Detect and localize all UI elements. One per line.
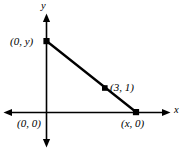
coordinate-plane-figure: y x (0, y) (3, 1) (0, 0) (x, 0) [0, 0, 185, 151]
x-axis-label: x [174, 104, 179, 116]
point-marker-midpoint [102, 85, 108, 91]
point-marker-y-intercept [43, 38, 49, 44]
x-axis-left-arrow-icon [4, 109, 13, 116]
point-label-origin: (0, 0) [17, 117, 41, 129]
y-axis-down-arrow-icon [43, 139, 50, 148]
point-label-midpoint: (3, 1) [110, 81, 134, 93]
y-axis-up-arrow-icon [43, 14, 50, 23]
x-axis-right-arrow-icon [162, 109, 171, 116]
point-label-y-intercept: (0, y) [10, 35, 33, 47]
y-axis-label: y [41, 0, 46, 12]
point-marker-x-intercept [133, 109, 139, 115]
line-segment [47, 41, 137, 112]
point-label-x-intercept: (x, 0) [121, 117, 144, 129]
